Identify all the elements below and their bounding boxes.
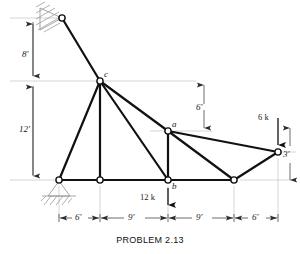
dim-label-8ft: 8': [22, 50, 28, 59]
left-pin-support: [41, 181, 76, 205]
truss-members: [59, 18, 278, 180]
dim-label-12ft: 12': [19, 125, 30, 134]
dim-label-6ft-1: 6': [75, 213, 81, 222]
dimension-horizontal-bottom: [59, 214, 278, 222]
dim-label-6ft-2: 6': [252, 213, 258, 222]
dim-label-9ft-1: 9': [128, 213, 134, 222]
joint-c: [97, 78, 103, 84]
member-c-left: [59, 81, 100, 180]
joint-left-support: [56, 177, 62, 183]
member-a-right: [168, 131, 278, 152]
left-support-hatch-icon: [41, 196, 72, 205]
joint-right: [275, 149, 281, 155]
member-top-support-c: [62, 18, 100, 81]
top-pin-support: [36, 2, 62, 32]
member-c-b: [100, 81, 168, 180]
joint-b: [165, 177, 171, 183]
member-bottomright-right: [234, 152, 278, 180]
member-c-a: [100, 81, 168, 131]
dim-label-3ft: 3': [283, 150, 289, 159]
joint-bottom-mid: [97, 177, 103, 183]
joint-label-b: b: [172, 182, 177, 191]
joint-a: [165, 128, 171, 134]
joint-bottom-right: [231, 177, 237, 183]
figure-caption: PROBLEM 2.13: [0, 236, 300, 245]
dim-label-6ft-a: 6': [196, 103, 202, 112]
dimension-vertical-right: [204, 85, 290, 180]
load-label-12k: 12 k: [140, 193, 155, 202]
load-label-6k: 6 k: [258, 113, 269, 122]
dimension-extension-lines: [10, 18, 296, 218]
joint-label-a: a: [172, 120, 177, 129]
joint-label-c: c: [104, 70, 108, 79]
dim-label-9ft-2: 9': [196, 213, 202, 222]
figure-canvas: 8' 12' 6' 3' 6' 9' 9' 6' c a b 12 k 6 k …: [0, 0, 300, 254]
joint-top-support: [59, 15, 65, 21]
